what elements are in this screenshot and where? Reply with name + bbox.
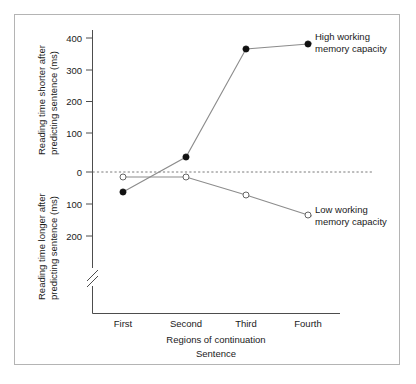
y-axis-title-lower-line2: predicting sentence (ms) [48,196,59,300]
data-point-low-third [243,192,249,198]
legend-label-high-line1: High working [315,31,370,42]
legend-label-high-line2: memory capacity [315,43,387,54]
data-point-low-first [120,174,126,180]
tick-label-100-upper: 100 [66,128,82,139]
data-point-high-first [120,189,126,195]
figure-container: 400 300 200 100 0 100 200 High working m… [0,0,416,384]
tick-label-400: 400 [66,33,82,44]
x-axis-title-primary: Regions of continuation [166,334,265,345]
series-line-high-working-memory [123,44,308,192]
tick-label-100-lower: 100 [66,199,82,210]
axis-break-mark-2 [87,276,98,287]
x-category-label-fourth: Fourth [294,318,321,329]
axis-break-mark-1 [87,270,98,281]
data-point-high-third [243,46,249,52]
x-category-label-second: Second [170,318,202,329]
tick-label-200-lower: 200 [66,231,82,242]
x-axis-title-secondary: Sentence [196,348,236,359]
tick-label-200-upper: 200 [66,96,82,107]
data-point-low-second [183,174,189,180]
y-axis-title-upper-line2: predicting sentence (ms) [48,51,59,155]
data-point-low-fourth [305,212,311,218]
x-category-label-third: Third [235,318,257,329]
data-point-high-fourth [305,41,311,47]
chart-plot: 400 300 200 100 0 100 200 High working m… [0,0,416,384]
tick-label-300: 300 [66,65,82,76]
legend-label-low-line2: memory capacity [315,216,387,227]
x-category-label-first: First [114,318,133,329]
y-axis-title-upper-line1: Reading time shorter after [36,45,47,155]
legend-label-low-line1: Low working [315,204,368,215]
data-point-high-second [183,154,189,160]
tick-label-0: 0 [77,167,82,178]
y-axis-title-lower-line1: Reading time longer after [36,193,47,300]
series-line-low-working-memory [123,177,308,215]
